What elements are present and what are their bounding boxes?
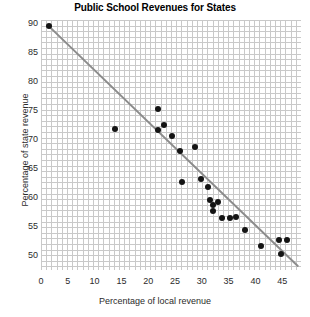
x-tick-label: 5 <box>53 276 83 286</box>
x-tick-label: 10 <box>80 276 110 286</box>
data-point <box>242 227 248 233</box>
x-tick-label: 35 <box>214 276 244 286</box>
data-point <box>276 237 282 243</box>
x-axis-ticks: 051015202530354045 <box>0 276 310 292</box>
data-point <box>284 237 290 243</box>
data-point <box>192 144 198 150</box>
data-point <box>155 106 161 112</box>
data-point <box>219 215 225 221</box>
data-point <box>177 148 183 154</box>
data-point <box>169 133 175 139</box>
data-point <box>278 251 284 257</box>
trendline-layer <box>41 20 301 270</box>
data-point <box>161 122 167 128</box>
data-point <box>233 214 239 220</box>
data-point <box>210 208 216 214</box>
y-tick-label: 90 <box>2 18 38 28</box>
trendline <box>49 26 298 266</box>
x-tick-label: 0 <box>26 276 56 286</box>
x-tick-label: 40 <box>240 276 270 286</box>
data-point <box>215 199 221 205</box>
x-tick-label: 25 <box>160 276 190 286</box>
data-point <box>205 184 211 190</box>
y-axis-label: Percentage of state revenue <box>20 65 30 235</box>
y-axis-ticks: 505560657075808590 <box>0 0 38 317</box>
x-tick-label: 15 <box>106 276 136 286</box>
data-point <box>155 127 161 133</box>
data-point <box>46 23 52 29</box>
y-tick-label: 85 <box>2 47 38 57</box>
plot-area <box>41 20 301 270</box>
data-point <box>198 176 204 182</box>
y-tick-label: 50 <box>2 250 38 260</box>
chart-title: Public School Revenues for States <box>0 2 310 13</box>
data-point <box>258 243 264 249</box>
x-axis-label: Percentage of local revenue <box>0 296 310 306</box>
data-point <box>227 215 233 221</box>
data-point <box>112 126 118 132</box>
x-tick-label: 20 <box>133 276 163 286</box>
data-point <box>179 179 185 185</box>
x-tick-label: 45 <box>267 276 297 286</box>
chart-figure: Public School Revenues for States 505560… <box>0 0 310 317</box>
x-tick-label: 30 <box>187 276 217 286</box>
